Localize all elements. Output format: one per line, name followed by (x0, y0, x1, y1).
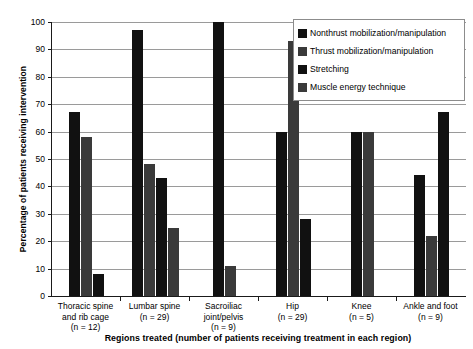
y-axis-tick-label: 90 (19, 45, 45, 54)
bar (132, 30, 144, 296)
y-axis-tick-mark (48, 22, 52, 23)
y-axis-tick-mark (48, 186, 52, 187)
gridline (52, 269, 466, 270)
y-axis-tick-mark (48, 241, 52, 242)
legend-item: Thrust mobilization/manipulation (298, 42, 459, 60)
x-axis-category-label: Knee (n = 5) (327, 301, 396, 322)
bar (69, 112, 81, 296)
legend-label: Stretching (310, 64, 349, 74)
bar-group (213, 22, 237, 296)
gridline (52, 159, 466, 160)
y-axis-tick-mark (48, 214, 52, 215)
bar-chart: Percentage of patients receiving interve… (0, 0, 473, 349)
gridline (52, 132, 466, 133)
chart-legend: Nonthrust mobilization/manipulationThrus… (293, 19, 465, 101)
y-axis-tick-label: 10 (19, 264, 45, 273)
bar (351, 132, 363, 296)
x-axis-title: Regions treated (number of patients rece… (51, 333, 465, 343)
y-axis-tick-mark (48, 296, 52, 297)
bar (156, 178, 168, 296)
x-axis-category-label: Thoracic spine and rib cage (n = 12) (51, 301, 120, 333)
x-axis-category-label: Lumbar spine (n = 29) (120, 301, 189, 322)
bar (213, 22, 225, 296)
bar (363, 132, 375, 296)
bar (300, 219, 312, 296)
bar-group (69, 22, 105, 296)
y-axis-tick-mark (48, 104, 52, 105)
y-axis-tick-label: 50 (19, 155, 45, 164)
bar (414, 175, 426, 296)
y-axis-tick-mark (48, 49, 52, 50)
y-axis-tick-mark (48, 77, 52, 78)
legend-item: Nonthrust mobilization/manipulation (298, 24, 459, 42)
y-axis-tick-label: 80 (19, 73, 45, 82)
y-axis-tick-label: 0 (19, 292, 45, 301)
bar (93, 274, 105, 296)
bar (168, 228, 180, 297)
bar (276, 132, 288, 296)
y-axis-tick-label: 70 (19, 100, 45, 109)
y-axis-tick-label: 30 (19, 210, 45, 219)
x-axis-category-label: Hip (n = 29) (258, 301, 327, 322)
gridline (52, 104, 466, 105)
legend-item: Muscle energy technique (298, 78, 459, 96)
y-axis-tick-label: 20 (19, 237, 45, 246)
legend-color-swatch-icon (298, 65, 307, 74)
x-axis-category-label: Sacroiliac joint/pelvis (n = 9) (189, 301, 258, 333)
bar-group (132, 22, 180, 296)
gridline (52, 214, 466, 215)
y-axis-title-container: Percentage of patients receiving interve… (0, 0, 20, 300)
y-axis-tick-label: 100 (19, 18, 45, 27)
y-axis-tick-mark (48, 269, 52, 270)
legend-item: Stretching (298, 60, 459, 78)
bar (426, 236, 438, 296)
legend-label: Thrust mobilization/manipulation (310, 46, 433, 56)
y-axis-tick-label: 60 (19, 127, 45, 136)
x-axis-category-label: Ankle and foot (n = 9) (396, 301, 465, 322)
legend-color-swatch-icon (298, 29, 307, 38)
y-axis-tick-label: 40 (19, 182, 45, 191)
bar (144, 164, 156, 296)
bar (225, 266, 237, 296)
legend-color-swatch-icon (298, 83, 307, 92)
bar (438, 112, 450, 296)
legend-label: Muscle energy technique (310, 82, 406, 92)
bar (81, 137, 93, 296)
legend-label: Nonthrust mobilization/manipulation (310, 28, 446, 38)
gridline (52, 241, 466, 242)
y-axis-tick-mark (48, 159, 52, 160)
y-axis-tick-mark (48, 132, 52, 133)
gridline (52, 186, 466, 187)
legend-color-swatch-icon (298, 47, 307, 56)
